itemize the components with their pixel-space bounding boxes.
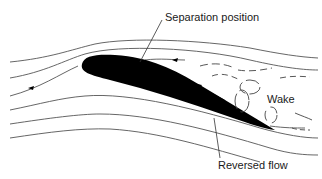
wake-dash — [238, 68, 272, 71]
streamline-6 — [10, 129, 260, 162]
reversed-flow-label: Reversed flow — [218, 160, 288, 171]
separation-position-label: Separation position — [165, 12, 259, 23]
flow-separation-diagram — [0, 0, 322, 179]
reversed-flow-leader-line — [214, 118, 220, 158]
wake-dash — [212, 74, 240, 80]
wake-dash — [200, 64, 232, 67]
streamline-5 — [10, 114, 318, 155]
separation-leader-line — [140, 20, 162, 62]
wake-dash — [295, 113, 312, 120]
streamline-1 — [10, 40, 318, 62]
streamline-3 — [10, 66, 78, 96]
wake-dash — [280, 76, 310, 78]
eddy — [240, 80, 260, 94]
eddy — [265, 107, 277, 123]
upper-arrow-icon — [172, 58, 178, 62]
streamline-3b — [145, 59, 185, 60]
eddy — [235, 90, 249, 112]
wake-label: Wake — [267, 94, 295, 105]
streamline-7 — [270, 126, 305, 128]
